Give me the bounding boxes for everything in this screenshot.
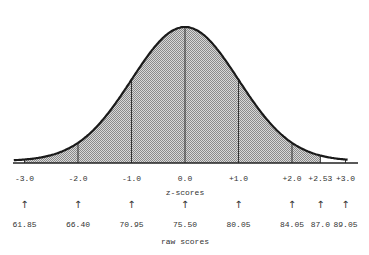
z-tick-label: +3.0 <box>336 174 355 183</box>
arrow-up-icon: ↑ <box>234 200 242 210</box>
raw-score-label: 70.95 <box>119 220 143 229</box>
raw-score-label: 87.0 <box>311 220 330 229</box>
z-score-lines <box>25 27 346 163</box>
arrow-up-icon: ↑ <box>288 200 296 210</box>
z-tick-label: 0.0 <box>178 174 192 183</box>
raw-score-label: 84.05 <box>280 220 304 229</box>
arrow-up-icon: ↑ <box>127 200 135 210</box>
shaded-area <box>25 27 321 163</box>
normal-curve-plot <box>0 0 369 255</box>
z-tick-label: -1.0 <box>122 174 141 183</box>
arrow-up-icon: ↑ <box>316 200 324 210</box>
arrow-up-icon: ↑ <box>74 200 82 210</box>
arrow-up-icon: ↑ <box>341 200 349 210</box>
raw-axis-title: raw scores <box>161 237 209 246</box>
z-tick-label: +1.0 <box>229 174 248 183</box>
arrow-up-icon: ↑ <box>181 200 189 210</box>
arrow-up-icon: ↑ <box>20 200 28 210</box>
raw-score-label: 75.50 <box>173 220 197 229</box>
raw-score-label: 61.85 <box>12 220 36 229</box>
z-tick-label: +2.53 <box>308 174 332 183</box>
z-tick-label: -3.0 <box>15 174 34 183</box>
z-tick-label: -2.0 <box>68 174 87 183</box>
z-tick-label: +2.0 <box>282 174 301 183</box>
raw-score-label: 89.05 <box>333 220 357 229</box>
z-axis-title: z-scores <box>166 188 204 197</box>
raw-score-label: 80.05 <box>226 220 250 229</box>
raw-score-label: 66.40 <box>66 220 90 229</box>
normal-distribution-chart: -3.0↑61.85-2.0↑66.40-1.0↑70.950.0↑75.50+… <box>0 0 369 255</box>
